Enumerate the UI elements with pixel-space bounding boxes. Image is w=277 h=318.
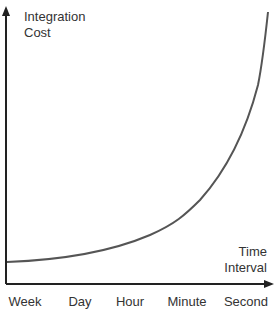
x-axis-label: Time Interval bbox=[224, 244, 267, 276]
x-label-line2: Interval bbox=[224, 260, 267, 276]
x-tick-minute: Minute bbox=[167, 294, 206, 309]
x-label-line1: Time bbox=[224, 244, 267, 260]
x-tick-hour: Hour bbox=[116, 294, 144, 309]
y-axis-label: Integration Cost bbox=[24, 9, 85, 41]
x-axis-arrow-icon bbox=[264, 280, 274, 288]
x-tick-day: Day bbox=[68, 294, 91, 309]
y-label-line2: Cost bbox=[24, 25, 85, 41]
x-tick-week: Week bbox=[9, 294, 42, 309]
y-label-line1: Integration bbox=[24, 9, 85, 25]
y-axis-arrow-icon bbox=[2, 6, 10, 16]
x-tick-second: Second bbox=[224, 294, 268, 309]
cost-curve bbox=[7, 12, 268, 262]
